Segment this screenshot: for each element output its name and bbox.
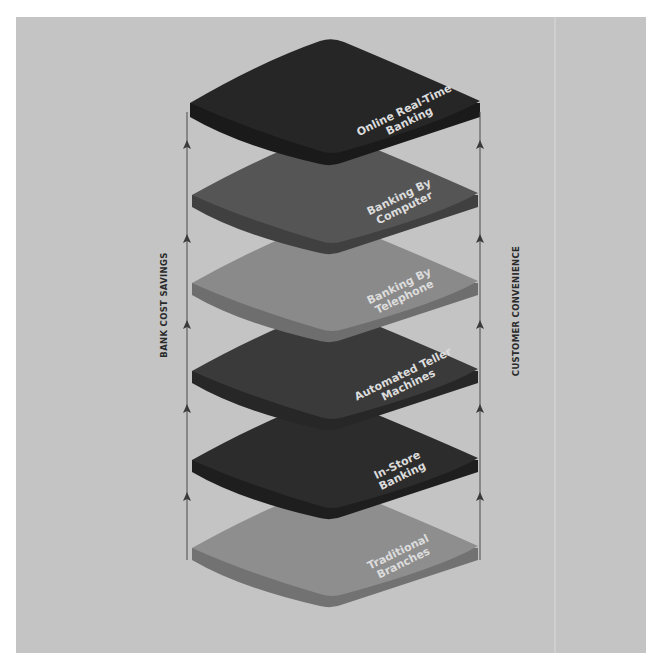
left-axis-arrow-line: [183, 112, 191, 560]
bank-cost-savings-label: BANK COST SAVINGS: [159, 245, 169, 365]
layer-stack-diagram: [0, 0, 664, 666]
customer-convenience-label: CUSTOMER CONVENIENCE: [511, 241, 521, 381]
right-axis-arrow-line: [476, 112, 484, 560]
